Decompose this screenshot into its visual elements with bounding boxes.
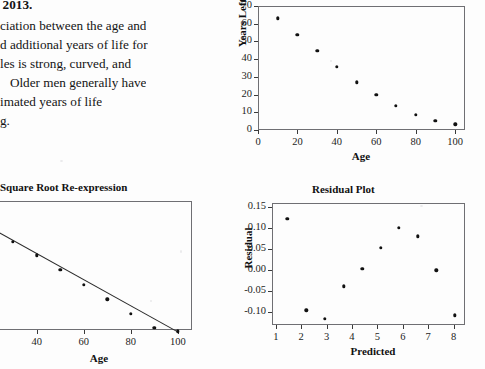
scan-speckle [420, 205, 423, 207]
x-axis-tick [276, 325, 277, 329]
x-axis-tick [327, 325, 328, 329]
y-axis-tick-label: 0.10 [224, 221, 266, 232]
scanned-textbook-page: , 2013. ciation between the age and d ad… [0, 0, 485, 369]
x-axis-tick-label: 20 [0, 336, 12, 347]
chart-title: Square Root Re-expression [0, 181, 127, 193]
y-axis-tick [268, 228, 272, 229]
x-axis-tick [258, 130, 259, 134]
x-axis-title: Predicted [328, 345, 418, 357]
y-axis-tick-label: 20 [210, 88, 252, 99]
y-axis-tick-label: 40 [210, 52, 252, 63]
y-axis-tick-label: 60 [210, 17, 252, 28]
plot-frame [0, 201, 192, 330]
x-axis-tick-label: 100 [156, 336, 200, 347]
y-axis-tick [268, 291, 272, 292]
x-axis-tick [84, 330, 85, 334]
x-axis-title: Age [64, 352, 134, 364]
scan-speckle [60, 160, 63, 162]
x-axis-tick [301, 325, 302, 329]
y-axis-tick-label: 0.05 [224, 242, 266, 253]
data-point [176, 329, 179, 332]
y-axis-tick-label: 0.15 [224, 200, 266, 211]
x-axis-tick-label: 40 [15, 336, 59, 347]
y-axis-tick-label: -0.05 [224, 284, 266, 295]
y-axis-tick [254, 112, 258, 113]
y-axis-tick-label: 70 [210, 0, 252, 10]
y-axis-tick [254, 41, 258, 42]
x-axis-tick [297, 130, 298, 134]
x-axis-tick [428, 325, 429, 329]
x-axis-tick [131, 330, 132, 334]
y-axis-tick-label: 50 [210, 34, 252, 45]
x-axis-tick-label: 20 [275, 136, 319, 147]
x-axis-tick-label: 80 [109, 336, 153, 347]
x-axis-tick [37, 330, 38, 334]
y-axis-tick-label: 10 [210, 105, 252, 116]
x-axis-tick [403, 325, 404, 329]
y-axis-tick [268, 270, 272, 271]
scan-speckle [180, 250, 182, 253]
y-axis-tick [254, 77, 258, 78]
y-axis-tick [268, 312, 272, 313]
x-axis-tick [454, 325, 455, 329]
x-axis-tick-label: 60 [62, 336, 106, 347]
y-axis-tick [254, 130, 258, 131]
x-axis-title: Age [311, 150, 411, 162]
y-axis-tick-label: 30 [210, 70, 252, 81]
x-axis-tick-label: 0 [236, 136, 280, 147]
x-axis-tick-label: 60 [354, 136, 398, 147]
y-axis-tick [268, 207, 272, 208]
plot-frame [272, 203, 465, 325]
x-axis-tick [376, 130, 377, 134]
chart-age-vs-years-left: Years Left Age 0204060801000102030405060… [0, 0, 485, 180]
x-axis-tick-label: 80 [394, 136, 438, 147]
scan-speckle [150, 300, 152, 302]
x-axis-tick-label: 40 [315, 136, 359, 147]
x-axis-tick [377, 325, 378, 329]
chart-title: Residual Plot [312, 183, 375, 195]
scan-speckle [330, 60, 332, 62]
y-axis-tick [254, 24, 258, 25]
y-axis-tick-label: 0.00 [224, 263, 266, 274]
y-axis-tick [254, 6, 258, 7]
x-axis-tick [416, 130, 417, 134]
chart-square-root-re-expression: Square Root Re-expression Age 2040608010… [0, 180, 200, 369]
x-axis-tick-label: 8 [432, 331, 476, 342]
y-axis-tick-label: -0.10 [224, 305, 266, 316]
x-axis-tick-label: 100 [433, 136, 477, 147]
y-axis-tick [268, 249, 272, 250]
y-axis-tick-label: 0 [210, 123, 252, 134]
x-axis-tick [455, 130, 456, 134]
y-axis-tick [254, 59, 258, 60]
x-axis-tick [337, 130, 338, 134]
x-axis-tick [352, 325, 353, 329]
y-axis-tick [254, 95, 258, 96]
plot-frame [258, 6, 465, 130]
chart-residual-plot: Residual Plot Residual Predicted 1234567… [230, 180, 485, 369]
